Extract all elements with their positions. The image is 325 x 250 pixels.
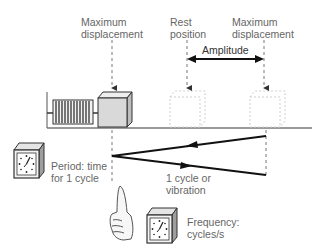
amplitude-arrow (187, 55, 264, 63)
label-rest-position: Rest position (170, 16, 206, 40)
label-frequency: Frequency: cycles/s (187, 216, 240, 240)
raised-index-finger-icon (110, 186, 133, 240)
spring-icon (47, 100, 98, 124)
label-max-displacement-left: Maximum displacement (81, 16, 143, 40)
dashed-block-max (250, 91, 285, 127)
clock-icon (147, 208, 177, 243)
block-icon (98, 92, 132, 127)
cycle-arrows (112, 136, 266, 175)
clock-icon (14, 143, 44, 178)
dashed-block-rest (170, 91, 205, 127)
label-cycle: 1 cycle or vibration (166, 172, 211, 196)
label-period: Period: time for 1 cycle (51, 160, 107, 184)
label-max-displacement-right: Maximum displacement (232, 16, 294, 40)
label-amplitude: Amplitude (202, 44, 249, 56)
arrow-right-head (180, 162, 192, 169)
